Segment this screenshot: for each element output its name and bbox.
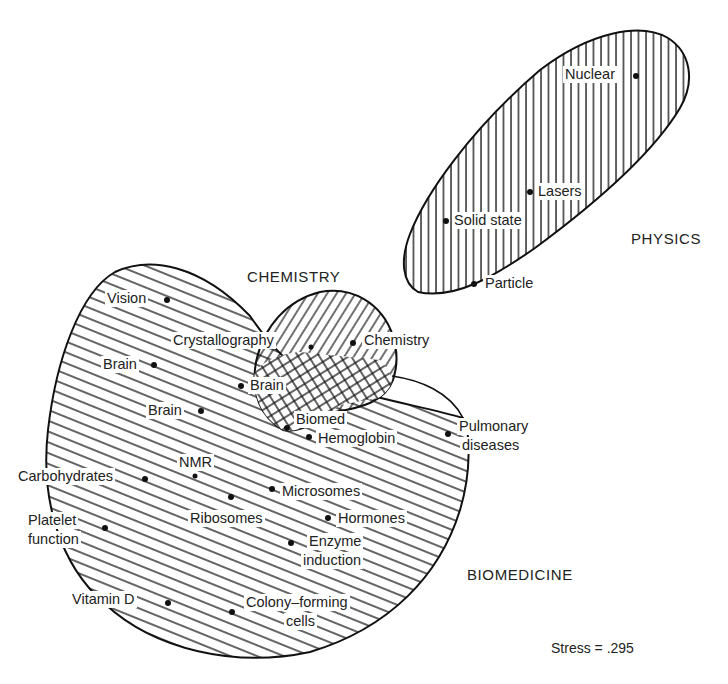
label-enzyme: Enzyme [307, 533, 363, 550]
label-crystallography: Crystallography [171, 332, 276, 349]
label-brain-2: Brain [248, 377, 286, 394]
label-biomed: Biomed [294, 411, 347, 428]
label-vision: Vision [105, 290, 148, 307]
region-label-biomedicine: BIOMEDICINE [467, 566, 573, 583]
stress-value: Stress = .295 [551, 640, 634, 656]
label-enzyme-induction: induction [301, 552, 363, 569]
label-brain-3: Brain [146, 402, 184, 419]
label-platelet: Platelet [26, 512, 78, 529]
region-label-physics: PHYSICS [631, 230, 701, 247]
label-nmr: NMR [177, 454, 214, 471]
label-hormones: Hormones [336, 510, 407, 527]
label-chemistry: Chemistry [362, 332, 431, 349]
label-lasers: Lasers [536, 183, 584, 200]
label-microsomes: Microsomes [280, 483, 362, 500]
label-ribosomes: Ribosomes [188, 510, 265, 527]
physics-region [404, 31, 689, 294]
label-vitamin-d: Vitamin D [70, 591, 137, 608]
region-label-chemistry: CHEMISTRY [247, 268, 340, 285]
label-particle: Particle [483, 275, 535, 292]
label-pulmonary: Pulmonary [457, 418, 530, 435]
label-pulmonary-diseases: diseases [460, 437, 521, 454]
label-nuclear: Nuclear [563, 66, 617, 83]
label-colony-forming: Colony–forming [244, 594, 350, 611]
label-carbohydrates: Carbohydrates [16, 468, 115, 485]
label-hemoglobin: Hemoglobin [316, 430, 397, 447]
label-platelet-function: function [26, 531, 81, 548]
label-brain-1: Brain [101, 356, 139, 373]
label-solid-state: Solid state [452, 212, 524, 229]
label-colony-cells: cells [284, 613, 317, 630]
